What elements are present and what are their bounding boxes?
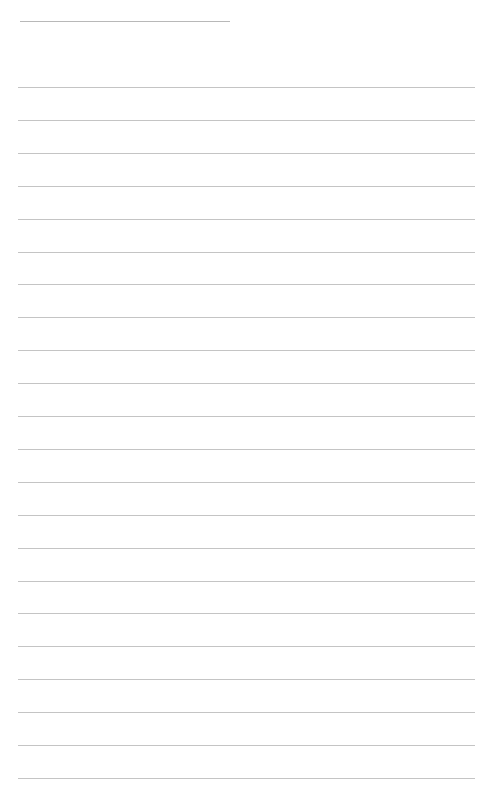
ruled-line: [18, 646, 475, 647]
ruled-line: [18, 416, 475, 417]
ruled-line: [18, 581, 475, 582]
ruled-line: [18, 548, 475, 549]
ruled-line: [18, 317, 475, 318]
ruled-line: [18, 679, 475, 680]
ruled-line: [18, 613, 475, 614]
ruled-line: [18, 219, 475, 220]
ruled-line: [18, 515, 475, 516]
ruled-line: [18, 350, 475, 351]
ruled-line: [18, 383, 475, 384]
header-name-line: [20, 21, 230, 22]
ruled-line: [18, 284, 475, 285]
ruled-line: [18, 87, 475, 88]
ruled-line: [18, 712, 475, 713]
ruled-line: [18, 778, 475, 779]
ruled-line: [18, 252, 475, 253]
ruled-line: [18, 482, 475, 483]
ruled-line: [18, 153, 475, 154]
ruled-line: [18, 120, 475, 121]
ruled-line: [18, 745, 475, 746]
ruled-line: [18, 186, 475, 187]
ruled-line: [18, 449, 475, 450]
